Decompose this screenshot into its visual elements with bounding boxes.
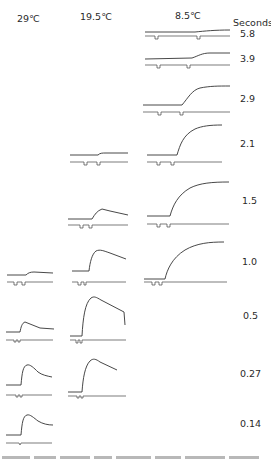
response-curve	[72, 250, 126, 271]
stimulus-marker-line	[145, 65, 230, 68]
stimulus-marker-line	[147, 162, 222, 165]
stimulus-marker-line	[147, 224, 229, 227]
response-curve	[145, 30, 230, 32]
stimulus-marker-line	[143, 112, 230, 115]
figure-caption-partial	[2, 454, 270, 460]
trace-8-5-1-5	[147, 182, 229, 227]
response-curve	[147, 182, 229, 216]
trace-19-5-0-5	[70, 297, 126, 343]
stimulus-marker-line	[70, 340, 126, 343]
response-curve	[6, 322, 54, 332]
response-curve	[145, 53, 230, 59]
trace-8-5-2-9	[143, 86, 230, 115]
response-curve	[68, 209, 128, 219]
response-curve	[6, 365, 52, 385]
stimulus-marker-line	[144, 282, 227, 285]
trace-19-5-2-1	[70, 153, 128, 165]
trace-8-5-3-9	[145, 53, 230, 68]
trace-19-5-0-27	[68, 359, 126, 398]
trace-29-0-5	[6, 322, 54, 342]
response-curve	[143, 86, 230, 105]
trace-19-5-1-0	[72, 250, 126, 285]
stimulus-marker-line	[6, 340, 53, 342]
stimulus-marker-line	[68, 396, 126, 398]
trace-8-5-5-8	[145, 30, 230, 39]
trace-8-5-1-0	[144, 242, 227, 285]
response-curve	[147, 125, 222, 155]
response-traces-plot	[0, 0, 271, 460]
response-curve	[7, 272, 53, 275]
response-curve	[6, 415, 53, 435]
trace-8-5-2-1	[147, 125, 222, 165]
stimulus-marker-line	[68, 225, 128, 228]
response-curve	[68, 359, 117, 392]
stimulus-marker-line	[6, 395, 52, 397]
response-curve	[70, 297, 125, 336]
stimulus-marker-line	[6, 443, 52, 445]
stimulus-marker-line	[70, 162, 128, 165]
response-curve	[70, 153, 128, 155]
trace-29-1-0	[7, 272, 53, 285]
stimulus-marker-line	[72, 282, 126, 285]
stimulus-marker-line	[145, 36, 230, 39]
trace-29-0-27	[6, 365, 52, 397]
trace-19-5-1-5	[68, 209, 128, 228]
response-curve	[144, 242, 224, 279]
trace-29-0-14	[6, 415, 53, 445]
stimulus-marker-line	[7, 282, 53, 285]
